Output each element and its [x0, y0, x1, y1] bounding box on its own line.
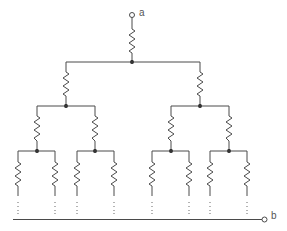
terminal-b-label: b — [271, 211, 277, 221]
terminal-b-icon — [262, 217, 267, 222]
level3-branches — [18, 106, 247, 153]
resistor-level1 — [129, 29, 135, 53]
level2-branch-right — [171, 62, 229, 108]
resistor-tree-diagram — [0, 0, 287, 231]
level2-branch-left — [37, 62, 95, 108]
ellipsis-continuation-icon — [18, 202, 248, 214]
terminal-a-icon — [130, 13, 135, 18]
resistor-level2 — [197, 72, 203, 96]
resistor-level2 — [63, 72, 69, 96]
terminal-a-label: a — [139, 8, 145, 18]
level4-leaves — [15, 151, 250, 196]
